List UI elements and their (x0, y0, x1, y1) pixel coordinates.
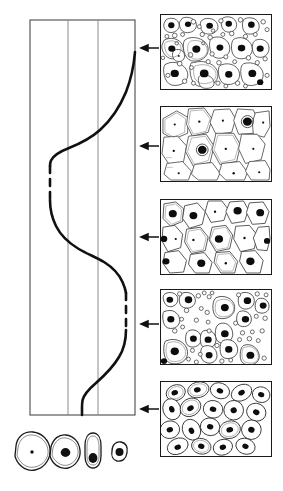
cytology-panel-4-field (161, 290, 271, 364)
legend-cell-3 (85, 433, 101, 468)
cytology-panel-3[interactable] (160, 199, 272, 275)
cytology-panel-2[interactable] (160, 106, 272, 182)
panel-arrows (141, 45, 159, 412)
cytology-panel-3-field (161, 200, 271, 274)
figure-canvas (0, 0, 283, 491)
arrow-to-panel-3 (141, 234, 159, 240)
arrow-to-panel-1 (141, 45, 159, 51)
cytology-panel-1-field (161, 15, 271, 89)
legend-cell-2 (50, 435, 80, 468)
legend-cell-1 (15, 432, 50, 470)
cytology-panel-2-field (161, 107, 271, 181)
cytology-panel-5[interactable] (160, 381, 272, 457)
cytology-panel-5-field (161, 382, 271, 456)
legend-cell-3-nucleus (89, 453, 98, 463)
legend-cell-4 (112, 442, 128, 461)
arrow-to-panel-2 (141, 143, 159, 149)
legend-cell-row (15, 432, 127, 470)
cytology-panel-4[interactable] (160, 289, 272, 365)
legend-cell-4-nucleus (116, 448, 124, 456)
arrow-to-panel-5 (141, 406, 159, 412)
legend-cell-1-nucleus (30, 450, 33, 453)
arrow-to-panel-4 (141, 321, 159, 327)
legend-cell-2-nucleus (61, 448, 71, 457)
cytology-panel-1[interactable] (160, 14, 272, 90)
